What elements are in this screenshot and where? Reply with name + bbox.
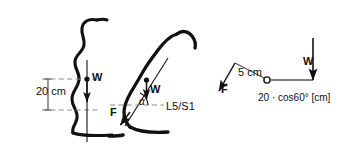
bent-force-label: F — [110, 107, 117, 118]
bent-angle-label: α — [139, 97, 145, 107]
bent-weight-label: W — [150, 84, 160, 95]
lever-weight-arm-label: 20 · cos60° [cm] — [258, 93, 330, 103]
l5-s1-joint-label: L5/S1 — [166, 101, 195, 112]
upright-weight-vector — [84, 60, 89, 142]
biomechanics-diagram-canvas: W 20 cm W α F L5/S1 5 cm F W 20 · cos60°… — [0, 0, 341, 146]
upright-weight-label: W — [92, 72, 102, 83]
lever-diagram — [219, 38, 313, 91]
upright-dimension-label: 20 cm — [36, 86, 66, 97]
diagram-vector-layer — [0, 0, 341, 146]
lever-force-label: F — [221, 84, 228, 95]
lever-force-arm-label: 5 cm — [238, 67, 262, 78]
lever-weight-label: W — [303, 56, 313, 67]
